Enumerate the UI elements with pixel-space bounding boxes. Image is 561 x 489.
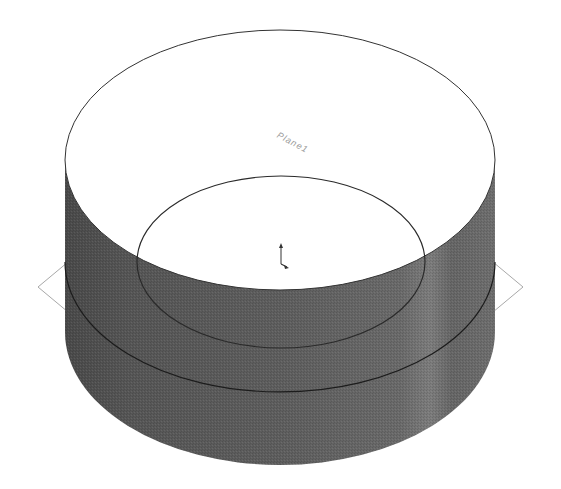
model-viewport[interactable]: Plane1 [0,0,561,489]
top-face[interactable] [65,30,495,290]
